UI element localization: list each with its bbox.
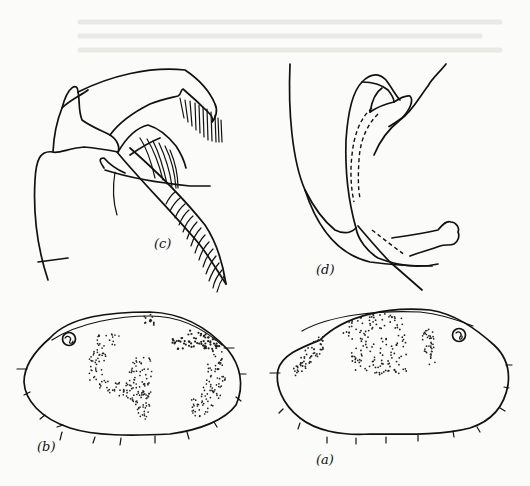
stipple-dot [176, 340, 178, 342]
stipple-dot [138, 407, 140, 409]
stipple-dot [95, 359, 97, 361]
stipple-dot [381, 372, 383, 374]
stipple-dot [401, 317, 403, 319]
stipple-dot [93, 352, 95, 354]
stipple-dot [304, 366, 306, 368]
stipple-dot [150, 360, 152, 362]
stipple-dot [311, 347, 313, 349]
stipple-dot [222, 376, 224, 378]
stipple-dot [142, 406, 144, 408]
stipple-dot [219, 378, 221, 380]
stipple-dot [359, 359, 361, 361]
stipple-dot [360, 365, 362, 367]
eye-spot-b [63, 333, 76, 346]
stipple-dot [149, 320, 151, 322]
stipple-dot [139, 415, 141, 417]
stipple-dot [95, 369, 97, 371]
stipple-dot [90, 360, 92, 362]
stipple-dot [90, 356, 92, 358]
stipple-dot [215, 347, 217, 349]
stipple-dot [379, 374, 381, 376]
stipple-dot [398, 357, 400, 359]
stipple-dot [218, 362, 220, 364]
stipple-dot [372, 327, 374, 329]
stipple-dot [122, 394, 124, 396]
stipple-dot [313, 341, 315, 343]
stipple-dot [112, 389, 114, 391]
stipple-dot [380, 327, 382, 329]
stipple-dot [369, 365, 371, 367]
stipple-dot [382, 354, 384, 356]
stipple-dot [210, 386, 212, 388]
stipple-dot [109, 339, 111, 341]
stipple-dot [105, 381, 107, 383]
stipple-dot [208, 347, 210, 349]
stipple-dot [369, 319, 371, 321]
stipple-dot [389, 366, 391, 368]
stipple-dot [398, 364, 400, 366]
stipple-dot [214, 389, 216, 391]
stipple-dot [103, 380, 105, 382]
stipple-dot [149, 359, 151, 361]
stipple-dot [431, 348, 433, 350]
stipple-dot [351, 356, 353, 358]
stipple-dot [397, 327, 399, 329]
stipple-dot [217, 377, 219, 379]
stipple-dot [144, 393, 146, 395]
stipple-dot [118, 395, 120, 397]
stipple-dot [118, 382, 120, 384]
stipple-dot [150, 314, 152, 316]
stipple-dot [106, 387, 108, 389]
stipple-dot [99, 387, 101, 389]
stipple-dot [379, 314, 381, 316]
stipple-dot [394, 317, 396, 319]
stipple-dot [195, 337, 197, 339]
stipple-dot [127, 397, 129, 399]
stipple-dot [184, 340, 186, 342]
stipple-dot [146, 397, 148, 399]
stipple-dot [387, 370, 389, 372]
stipple-dot [126, 392, 128, 394]
stipple-dot [361, 353, 363, 355]
stipple-dot [209, 340, 211, 342]
stipple-dot [193, 410, 195, 412]
stipple-dot [135, 387, 137, 389]
stipple-dot [351, 325, 353, 327]
stipple-dot [322, 347, 324, 349]
stipple-dot [194, 411, 196, 413]
stipple-dot [396, 361, 398, 363]
stipple-dot [296, 372, 298, 374]
stipple-dot [432, 331, 434, 333]
stipple-dot [215, 365, 217, 367]
stipple-dot [355, 328, 357, 330]
stipple-dot [188, 340, 190, 342]
stipple-dot [208, 368, 210, 370]
stipple-dot [133, 394, 135, 396]
stipple-dot [137, 392, 139, 394]
stipple-dot [357, 320, 359, 322]
stipple-dot [379, 365, 381, 367]
stipple-dot [362, 322, 364, 324]
stipple-dot [354, 361, 356, 363]
stipple-dot [428, 329, 430, 331]
stipple-dot [400, 355, 402, 357]
stipple-dot [182, 347, 184, 349]
stipple-dot [422, 339, 424, 341]
stipple-dot [389, 315, 391, 317]
stipple-dot [145, 322, 147, 324]
panel-c-appendage: (c) [35, 69, 226, 292]
stipple-dot [349, 326, 351, 328]
setae-b [17, 348, 246, 445]
stipple-dot [99, 383, 101, 385]
stipple-dot [215, 368, 217, 370]
stipple-dot [371, 316, 373, 318]
panel-a-label: (a) [316, 452, 334, 467]
stipple-dot [360, 338, 362, 340]
stipple-dot [133, 371, 135, 373]
stipple-dot [104, 354, 106, 356]
stipple-dot [147, 395, 149, 397]
stipple-dot [96, 349, 98, 351]
stipple-dot [188, 345, 190, 347]
stipple-dot [144, 415, 146, 417]
stipple-dot [177, 348, 179, 350]
